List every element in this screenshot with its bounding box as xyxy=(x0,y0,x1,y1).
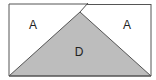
label-left-a: A xyxy=(29,18,37,32)
label-right-a: A xyxy=(123,18,131,32)
label-triangle-d: D xyxy=(75,45,84,59)
diagram: A A D xyxy=(0,0,156,80)
